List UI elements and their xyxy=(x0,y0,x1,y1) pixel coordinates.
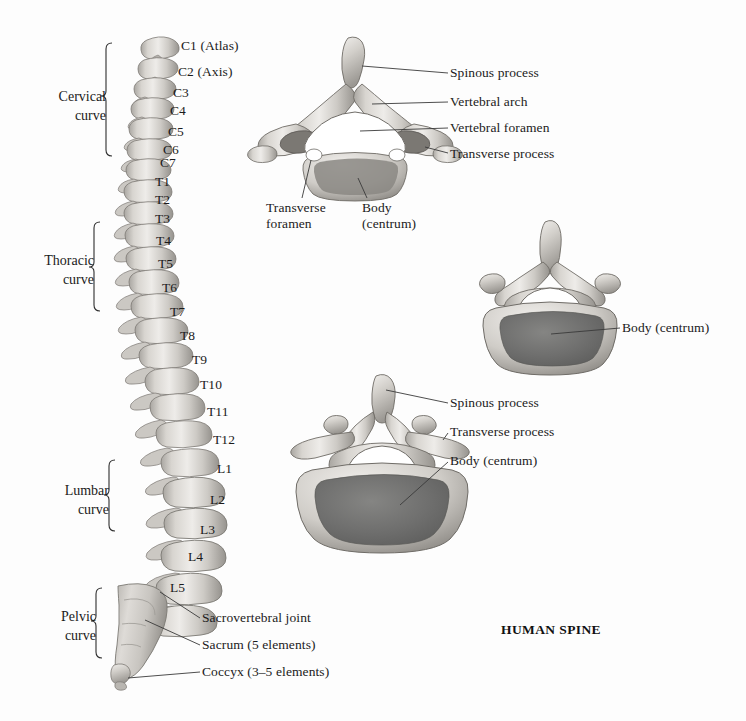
callout-cervical-transverse-foramen: Transverse foramen xyxy=(266,200,326,233)
callout-thoracic-body-centrum: Body (centrum) xyxy=(622,320,709,336)
callout-cervical-body-centrum: Body (centrum) xyxy=(362,200,416,233)
callout-sacrum: Sacrum (5 elements) xyxy=(202,637,316,653)
vertebra-label-t7: T7 xyxy=(170,304,185,320)
callout-cervical-transverse-foramen-line1: Transverse xyxy=(266,200,326,216)
brace-label-cervical: Cervical curve xyxy=(34,88,106,126)
diagram-title: HUMAN SPINE xyxy=(501,622,601,638)
brace-label-pelvic-line1: Pelvic xyxy=(24,608,96,627)
vertebra-label-l5: L5 xyxy=(170,580,185,596)
brace-label-thoracic-line2: curve xyxy=(22,271,94,290)
vertebra-label-t12: T12 xyxy=(213,432,235,448)
callout-coccyx: Coccyx (3–5 elements) xyxy=(202,664,329,680)
callout-cervical-spinous-process: Spinous process xyxy=(450,65,539,81)
brace-label-lumbar: Lumbar curve xyxy=(37,482,109,520)
vertebra-label-t3: T3 xyxy=(155,211,170,227)
vertebra-label-t1: T1 xyxy=(155,174,170,190)
vertebra-label-t4: T4 xyxy=(156,233,171,249)
brace-label-cervical-line2: curve xyxy=(34,107,106,126)
thoracic-vertebra-illustration xyxy=(480,221,621,375)
brace-label-pelvic-line2: curve xyxy=(24,627,96,646)
vertebra-label-t8: T8 xyxy=(180,328,195,344)
vertebra-label-c5: C5 xyxy=(168,124,184,140)
brace-label-thoracic-line1: Thoracic xyxy=(22,252,94,271)
vertebra-label-l3: L3 xyxy=(200,522,215,538)
callout-cervical-body-centrum-line2: (centrum) xyxy=(362,216,416,232)
cervical-vertebra-illustration xyxy=(248,37,463,201)
callout-lumbar-spinous-process: Spinous process xyxy=(450,395,539,411)
vertebra-label-t11: T11 xyxy=(207,404,229,420)
vertebra-label-l2: L2 xyxy=(210,492,225,508)
callout-lumbar-transverse-process: Transverse process xyxy=(450,424,554,440)
vertebra-label-c7: C7 xyxy=(160,155,176,171)
brace-label-lumbar-line2: curve xyxy=(37,501,109,520)
vertebra-label-c2: C2 (Axis) xyxy=(178,64,233,80)
brace-label-cervical-line1: Cervical xyxy=(34,88,106,107)
callout-cervical-transverse-process: Transverse process xyxy=(450,146,554,162)
vertebra-label-l1: L1 xyxy=(217,461,232,477)
vertebra-label-t2: T2 xyxy=(155,192,170,208)
human-spine-diagram: Cervical curve Thoracic curve Lumbar cur… xyxy=(0,0,746,721)
vertebra-label-t5: T5 xyxy=(158,256,173,272)
callout-cervical-body-centrum-line1: Body xyxy=(362,200,416,216)
vertebra-label-l4: L4 xyxy=(188,549,203,565)
brace-label-thoracic: Thoracic curve xyxy=(22,252,94,290)
lumbar-vertebra-illustration xyxy=(291,375,470,553)
callout-cervical-vertebral-foramen: Vertebral foramen xyxy=(450,120,550,136)
callout-lumbar-body-centrum: Body (centrum) xyxy=(450,453,537,469)
vertebra-label-c3: C3 xyxy=(173,85,189,101)
brace-label-pelvic: Pelvic curve xyxy=(24,608,96,646)
vertebra-label-t10: T10 xyxy=(200,377,222,393)
callout-cervical-transverse-foramen-line2: foramen xyxy=(266,216,326,232)
sacrum-coccyx-group xyxy=(111,584,167,690)
diagram-canvas xyxy=(0,0,746,721)
vertebra-label-t9: T9 xyxy=(192,352,207,368)
brace-label-lumbar-line1: Lumbar xyxy=(37,482,109,501)
vertebra-label-c1: C1 (Atlas) xyxy=(181,38,239,54)
callout-cervical-vertebral-arch: Vertebral arch xyxy=(450,94,527,110)
callout-sacrovertebral-joint: Sacrovertebral joint xyxy=(202,610,311,626)
vertebra-label-t6: T6 xyxy=(162,280,177,296)
vertebra-label-c4: C4 xyxy=(170,103,186,119)
